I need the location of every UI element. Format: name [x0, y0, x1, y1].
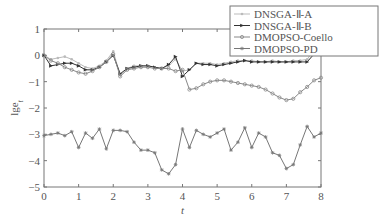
x-tick-label: 4: [180, 190, 186, 202]
y-axis-label: lget: [8, 99, 25, 115]
x-tick-label: 1: [76, 190, 82, 202]
line-chart: 01234567810−1−2−3−4−5tlget DNSGA-Ⅱ-ADNSG…: [0, 0, 380, 222]
legend-label: DNSGA-Ⅱ-B: [254, 20, 312, 32]
series-group: [42, 49, 323, 176]
x-tick-label: 5: [214, 190, 220, 202]
y-tick-label: −5: [28, 181, 40, 193]
x-tick-label: 0: [41, 190, 47, 202]
x-tick-label: 8: [318, 190, 324, 202]
y-tick-label: −2: [28, 102, 40, 114]
x-tick-label: 7: [284, 190, 290, 202]
y-tick-label: 1: [35, 23, 41, 35]
x-tick-label: 2: [111, 190, 117, 202]
legend-label: DNSGA-Ⅱ-A: [254, 8, 312, 20]
y-tick-label: −4: [28, 155, 40, 167]
x-axis-label: t: [181, 204, 185, 216]
y-tick-label: 0: [35, 49, 41, 61]
series-dmopso-pd: [42, 125, 323, 176]
legend: DNSGA-Ⅱ-ADNSGA-Ⅱ-BDMOPSO-CoelloDMOPSO-PD: [230, 6, 378, 56]
y-tick-label: −1: [28, 76, 40, 88]
x-tick-label: 3: [145, 190, 151, 202]
y-tick-label: −3: [28, 128, 40, 140]
legend-label: DMOPSO-Coello: [254, 31, 333, 43]
legend-label: DMOPSO-PD: [254, 43, 318, 55]
x-tick-label: 6: [249, 190, 255, 202]
